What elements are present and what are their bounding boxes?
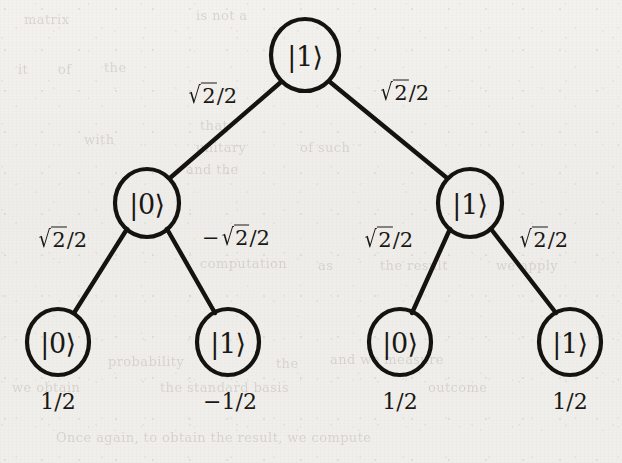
amplitude-leaf-10: 1/2 [382, 391, 417, 413]
node-label-root: |1⟩ [287, 43, 322, 70]
edge-weight-root-left-denominator: 2 [224, 84, 237, 108]
amplitude-leaf-11: 1/2 [552, 391, 587, 413]
edge-weight-right-leaf11: √2/2 [518, 230, 568, 251]
edge-weight-right-leaf10: √2/2 [363, 230, 413, 251]
node-label-leaf-00: |0⟩ [40, 330, 75, 357]
edge-weight-root-left-slash: / [217, 84, 224, 108]
edge-weight-root-left-radicand: 2 [201, 83, 216, 108]
edge-weight-left-leaf01-sign: − [202, 226, 220, 250]
edge-weight-root-right-radicand: 2 [393, 80, 408, 105]
node-label-leaf-10: |0⟩ [382, 330, 417, 357]
amplitude-leaf-01: −1/2 [203, 391, 257, 413]
edge-weight-left-leaf00: √2/2 [37, 230, 87, 251]
edge-weight-root-left: √2/2 [187, 86, 237, 107]
edge-weight-root-right-slash: / [409, 81, 416, 105]
edge-weight-root-right-denominator: 2 [416, 81, 429, 105]
node-label-l1-right: |1⟩ [452, 191, 487, 218]
node-label-leaf-01: |1⟩ [210, 330, 245, 357]
edge-weight-left-leaf01: −√2/2 [202, 228, 270, 249]
node-label-l1-left: |0⟩ [129, 191, 164, 218]
quantum-amplitude-tree-figure: matrixis not aitofthethatwithunitaryand … [0, 0, 622, 463]
amplitude-leaf-00: 1/2 [40, 391, 75, 413]
edge-weight-root-right: √2/2 [379, 83, 429, 104]
node-label-leaf-11: |1⟩ [552, 330, 587, 357]
edge-right-to-leaf10 [412, 229, 450, 313]
tree-node-circles [27, 19, 601, 375]
